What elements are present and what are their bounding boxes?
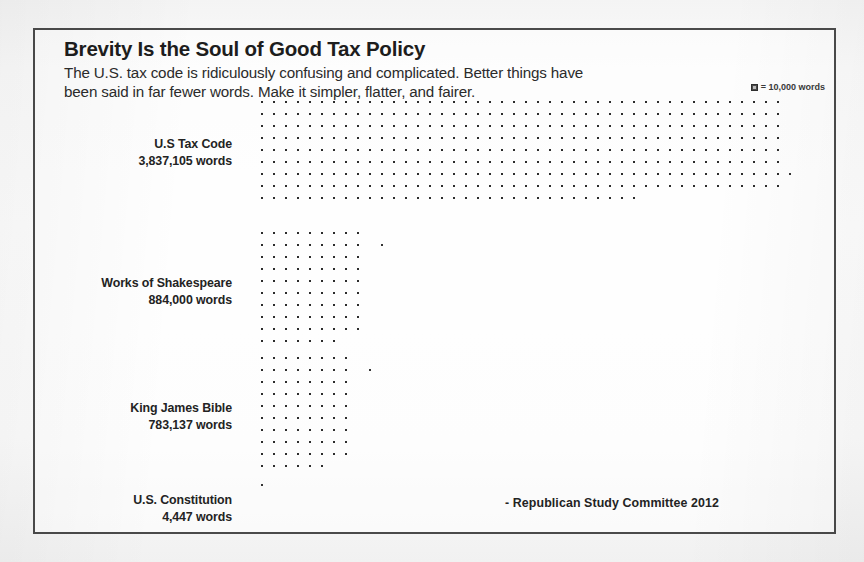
unit-square-icon <box>297 369 299 371</box>
unit-square-icon <box>573 137 575 139</box>
unit-square-icon <box>345 101 347 103</box>
unit-square-icon <box>609 149 611 151</box>
unit-square-icon <box>621 161 623 163</box>
unit-square-icon <box>537 185 539 187</box>
unit-square-icon <box>429 197 431 199</box>
unit-square-icon <box>561 149 563 151</box>
unit-square-icon <box>429 137 431 139</box>
unit-square-icon <box>345 304 347 306</box>
unit-square-icon <box>669 149 671 151</box>
unit-square-icon <box>489 125 491 127</box>
unit-square-icon <box>261 185 263 187</box>
unit-square-icon <box>513 185 515 187</box>
unit-square-icon <box>285 268 287 270</box>
pictogram-cell <box>284 466 296 478</box>
unit-square-icon <box>621 149 623 151</box>
unit-square-icon <box>285 453 287 455</box>
pictogram-cell <box>320 466 332 478</box>
pictogram-cell <box>332 210 344 222</box>
unit-square-icon <box>357 268 359 270</box>
pictogram-grid-row <box>260 485 272 497</box>
unit-square-icon <box>261 161 263 163</box>
pictogram-cell <box>752 186 764 198</box>
unit-square-icon <box>573 173 575 175</box>
unit-square-icon <box>369 113 371 115</box>
pictogram-grid-row <box>260 442 380 454</box>
pictogram-cell <box>356 341 368 353</box>
unit-square-icon <box>345 268 347 270</box>
unit-square-icon <box>465 173 467 175</box>
unit-square-icon <box>657 113 659 115</box>
unit-square-icon <box>273 244 275 246</box>
unit-square-icon <box>333 113 335 115</box>
unit-square-icon <box>393 137 395 139</box>
unit-square-icon <box>297 280 299 282</box>
unit-square-icon <box>429 149 431 151</box>
pictogram-cell <box>476 210 488 222</box>
pictogram-cell <box>716 186 728 198</box>
unit-square-icon <box>513 173 515 175</box>
pictogram-cell <box>644 210 656 222</box>
pictogram-cell <box>704 186 716 198</box>
pictogram-grid-row <box>260 269 392 281</box>
unit-square-icon <box>597 185 599 187</box>
unit-square-icon <box>345 137 347 139</box>
unit-square-icon <box>345 417 347 419</box>
unit-square-icon <box>345 393 347 395</box>
row-label-count: 3,837,105 words <box>35 153 232 170</box>
unit-square-icon <box>453 185 455 187</box>
pictogram-cell <box>560 210 572 222</box>
unit-square-icon <box>309 429 311 431</box>
unit-square-icon <box>597 137 599 139</box>
unit-square-icon <box>729 149 731 151</box>
unit-square-icon <box>357 185 359 187</box>
unit-square-icon <box>285 316 287 318</box>
unit-square-icon <box>477 113 479 115</box>
unit-square-icon <box>333 185 335 187</box>
unit-square-icon <box>333 369 335 371</box>
unit-square-icon <box>285 304 287 306</box>
unit-square-icon <box>621 185 623 187</box>
unit-square-icon <box>705 137 707 139</box>
unit-square-icon <box>285 173 287 175</box>
unit-square-icon <box>429 101 431 103</box>
unit-square-icon <box>309 185 311 187</box>
pictogram-cell <box>404 210 416 222</box>
pictogram-cell <box>680 210 692 222</box>
unit-square-icon <box>297 465 299 467</box>
legend-square-icon <box>751 84 758 91</box>
pictogram-cell <box>476 198 488 210</box>
unit-square-icon <box>693 125 695 127</box>
pictogram-grid <box>260 102 800 222</box>
pictogram-cell <box>320 341 332 353</box>
unit-square-icon <box>261 197 263 199</box>
unit-square-icon <box>405 149 407 151</box>
unit-square-icon <box>777 149 779 151</box>
pictogram-cell <box>284 198 296 210</box>
pictogram-grid-row <box>260 382 380 394</box>
unit-square-icon <box>585 173 587 175</box>
pictogram-cell <box>356 198 368 210</box>
unit-square-icon <box>549 185 551 187</box>
pictogram-cell <box>704 198 716 210</box>
unit-square-icon <box>261 244 263 246</box>
unit-square-icon <box>309 173 311 175</box>
unit-square-icon <box>273 256 275 258</box>
unit-square-icon <box>273 405 275 407</box>
unit-square-icon <box>537 149 539 151</box>
unit-square-icon <box>513 101 515 103</box>
unit-square-icon <box>297 137 299 139</box>
unit-square-icon <box>357 161 359 163</box>
unit-square-icon <box>261 292 263 294</box>
pictogram-cell <box>344 210 356 222</box>
unit-square-icon <box>753 185 755 187</box>
unit-square-icon <box>333 268 335 270</box>
unit-square-icon <box>597 161 599 163</box>
unit-square-icon <box>309 113 311 115</box>
pictogram-cell <box>788 174 800 186</box>
unit-square-icon <box>705 113 707 115</box>
pictogram-cell <box>656 198 668 210</box>
unit-square-icon <box>669 173 671 175</box>
pictogram-cell <box>344 341 356 353</box>
unit-square-icon <box>729 113 731 115</box>
